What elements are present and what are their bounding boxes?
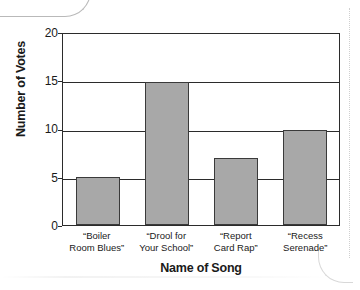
- x-tick-label-line-2: Serenade”: [271, 242, 339, 254]
- x-tick-label-drool-for-your-school: “Drool for Your School”: [132, 230, 200, 253]
- y-tick-label-5: 5: [32, 172, 58, 184]
- y-tick-label-15: 15: [32, 75, 58, 87]
- bar-recess-serenade[interactable]: [283, 130, 327, 226]
- y-tick-label-0: 0: [32, 220, 58, 232]
- y-tick-label-20: 20: [32, 27, 58, 39]
- y-tick-mark-0: [58, 226, 62, 227]
- x-tick-label-line-2: Card Rap”: [202, 242, 270, 254]
- x-tick-label-line-1: “Boiler: [63, 230, 131, 242]
- y-axis-ticks: 20 15 10 5 0: [28, 33, 58, 226]
- bar-series: [63, 34, 339, 225]
- x-tick-label-line-1: “Report: [202, 230, 270, 242]
- x-tick-label-boiler-room-blues: “Boiler Room Blues”: [63, 230, 131, 253]
- x-tick-label-line-1: “Recess: [271, 230, 339, 242]
- x-axis-title: Name of Song: [62, 261, 340, 275]
- x-tick-label-line-1: “Drool for: [132, 230, 200, 242]
- x-tick-label-line-2: Your School”: [132, 242, 200, 254]
- y-axis-title: Number of Votes: [14, 24, 28, 154]
- x-tick-label-report-card-rap: “Report Card Rap”: [202, 230, 270, 253]
- bar-boiler-room-blues[interactable]: [76, 177, 120, 225]
- bar-report-card-rap[interactable]: [214, 158, 258, 225]
- plot-area: [62, 33, 340, 226]
- y-tick-label-10: 10: [32, 123, 58, 135]
- x-tick-label-recess-serenade: “Recess Serenade”: [271, 230, 339, 253]
- x-tick-label-line-2: Room Blues”: [63, 242, 131, 254]
- x-axis-tick-labels: “Boiler Room Blues” “Drool for Your Scho…: [62, 230, 340, 253]
- bar-chart: Number of Votes 20 15 10 5 0 “Boiler Roo…: [0, 0, 360, 290]
- bar-drool-for-your-school[interactable]: [145, 82, 189, 225]
